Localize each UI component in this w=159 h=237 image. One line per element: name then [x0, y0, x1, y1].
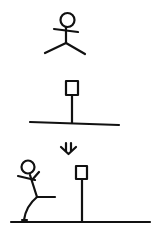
head-icon — [61, 13, 75, 27]
ground-line-middle — [30, 122, 119, 125]
sign-square — [66, 81, 78, 95]
head-icon — [22, 161, 35, 174]
left-leg-line — [45, 43, 66, 53]
arrow-head — [61, 147, 76, 154]
diagram-canvas: Three-panel stick-figure diagram: a stic… — [0, 0, 159, 237]
signpost-bottom-icon — [11, 166, 150, 222]
standing-leg-line — [24, 197, 37, 220]
down-arrow-icon — [61, 143, 76, 154]
raised-arm-line — [32, 172, 39, 180]
sign-square — [76, 166, 87, 179]
right-leg-line — [66, 43, 85, 54]
signpost-icon — [30, 81, 119, 125]
standing-stick-figure-icon — [45, 13, 85, 54]
kicking-stick-figure-icon — [18, 161, 55, 221]
